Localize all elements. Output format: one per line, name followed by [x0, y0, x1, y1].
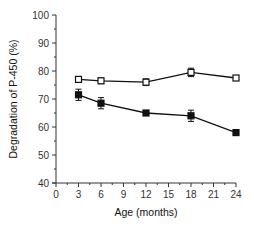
- y-axis-title: Degradation of P-450 (%): [7, 39, 19, 158]
- series-filled-square: [76, 89, 240, 135]
- open-square-marker-icon: [233, 75, 239, 81]
- open-square-marker-icon: [98, 78, 104, 84]
- x-axis-title: Age (months): [114, 206, 177, 218]
- x-tick-label: 6: [98, 189, 104, 200]
- y-tick-label: 80: [38, 66, 50, 77]
- filled-square-marker-icon: [188, 113, 194, 119]
- y-tick-label: 70: [38, 94, 50, 105]
- y-tick-label: 90: [38, 38, 50, 49]
- data-series: [76, 68, 240, 135]
- open-square-marker-icon: [188, 69, 194, 75]
- x-tick-label: 24: [230, 189, 242, 200]
- y-tick-label: 100: [32, 10, 49, 21]
- series-open-square: [76, 68, 240, 85]
- x-tick-label: 3: [76, 189, 82, 200]
- y-tick-label: 40: [38, 178, 50, 189]
- filled-square-marker-icon: [143, 110, 149, 116]
- x-tick-label: 0: [53, 189, 59, 200]
- x-tick-label: 18: [185, 189, 197, 200]
- x-tick-label: 12: [140, 189, 152, 200]
- line-chart: 40506070809010003691215182124 Age (month…: [0, 0, 254, 229]
- x-tick-label: 9: [121, 189, 127, 200]
- filled-square-marker-icon: [98, 100, 104, 106]
- x-tick-label: 21: [208, 189, 220, 200]
- x-tick-label: 15: [163, 189, 175, 200]
- filled-square-marker-icon: [76, 92, 82, 98]
- y-tick-label: 60: [38, 122, 50, 133]
- open-square-marker-icon: [76, 76, 82, 82]
- open-square-marker-icon: [143, 79, 149, 85]
- filled-square-marker-icon: [233, 130, 239, 136]
- axes: 40506070809010003691215182124: [32, 10, 242, 201]
- y-tick-label: 50: [38, 150, 50, 161]
